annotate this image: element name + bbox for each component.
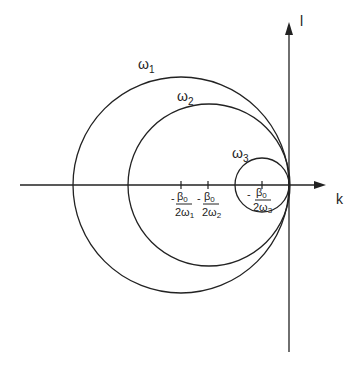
l-axis: l xyxy=(285,13,303,352)
svg-text:β0: β0 xyxy=(204,190,215,204)
svg-text:β0: β0 xyxy=(256,186,267,200)
tick-label-3: - β0 2ω3 xyxy=(247,186,273,215)
circle-diagram: k l ω1 ω2 ω3 - β0 2ω1 - β0 2ω2 - β0 xyxy=(0,0,362,371)
svg-text:β0: β0 xyxy=(177,190,188,204)
svg-text:-: - xyxy=(171,192,175,204)
label-omega-3: ω3 xyxy=(232,145,249,164)
l-axis-arrowhead-icon xyxy=(285,22,293,35)
svg-text:-: - xyxy=(247,188,251,200)
tick-label-2: - β0 2ω2 xyxy=(197,190,222,220)
label-omega-2: ω2 xyxy=(177,88,194,107)
tick-label-1: - β0 2ω1 xyxy=(171,190,195,220)
svg-text:2ω2: 2ω2 xyxy=(202,206,222,220)
svg-text:2ω1: 2ω1 xyxy=(175,206,195,220)
label-omega-1: ω1 xyxy=(138,56,155,75)
svg-text:-: - xyxy=(197,192,201,204)
svg-text:2ω3: 2ω3 xyxy=(253,201,273,215)
k-axis-arrowhead-icon xyxy=(314,181,326,189)
k-axis-label: k xyxy=(336,191,344,207)
l-axis-label: l xyxy=(300,13,303,29)
